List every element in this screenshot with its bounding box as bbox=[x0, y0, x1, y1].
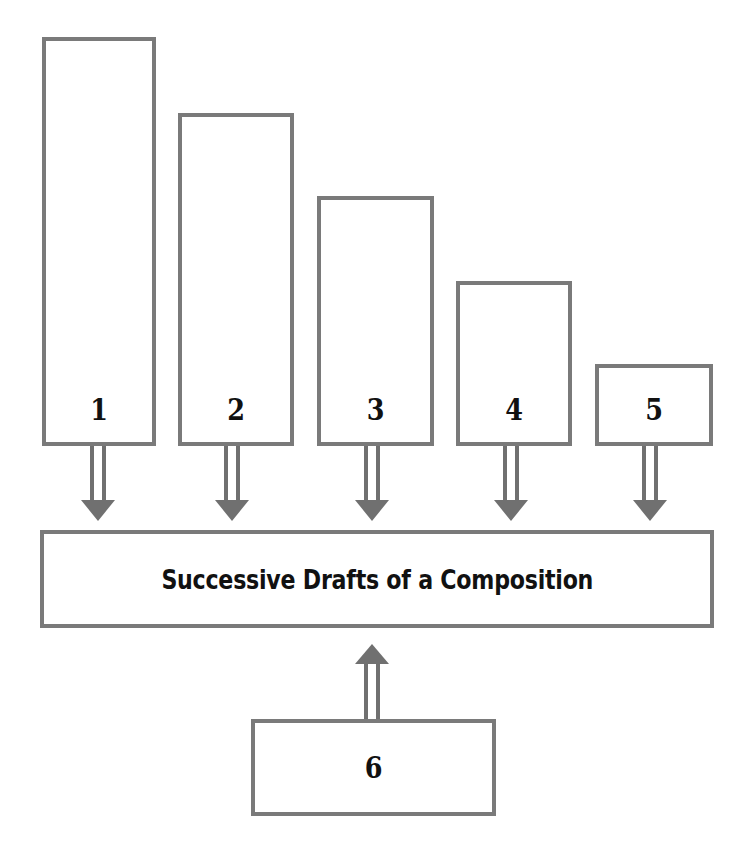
arrow-3-down bbox=[366, 446, 378, 502]
arrow-1-down bbox=[92, 446, 104, 502]
draft-number-6: 6 bbox=[273, 753, 474, 783]
draft-box-3: 3 bbox=[317, 196, 434, 446]
arrow-head-4 bbox=[494, 500, 528, 521]
arrow-2-down bbox=[226, 446, 238, 502]
draft-box-1: 1 bbox=[42, 37, 156, 446]
arrow-head-3 bbox=[355, 500, 389, 521]
composition-title-wrap: Successive Drafts of a Composition bbox=[44, 534, 710, 624]
arrow-head-2 bbox=[215, 500, 249, 521]
draft-number-1: 1 bbox=[54, 395, 144, 425]
arrow-head-1 bbox=[81, 500, 115, 521]
composition-box: Successive Drafts of a Composition bbox=[40, 530, 714, 628]
arrow-5-down bbox=[644, 446, 656, 502]
draft-number-5: 5 bbox=[607, 395, 701, 425]
arrow-head-5 bbox=[633, 500, 667, 521]
draft-number-4: 4 bbox=[468, 395, 560, 425]
arrow-4-down bbox=[505, 446, 517, 502]
draft-number-3: 3 bbox=[329, 395, 422, 425]
draft-number-2: 2 bbox=[190, 395, 282, 425]
draft-box-4: 4 bbox=[456, 281, 572, 446]
draft-box-2: 2 bbox=[178, 113, 294, 446]
arrow-head-6 bbox=[355, 644, 389, 664]
draft-box-6: 6 bbox=[251, 719, 496, 816]
composition-title: Successive Drafts of a Composition bbox=[161, 564, 593, 595]
draft-box-5: 5 bbox=[595, 364, 713, 446]
arrow-6-up bbox=[366, 662, 378, 719]
